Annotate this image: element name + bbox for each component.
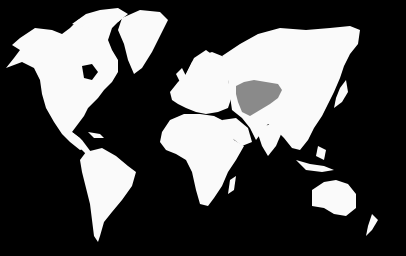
world-map [0,0,406,256]
